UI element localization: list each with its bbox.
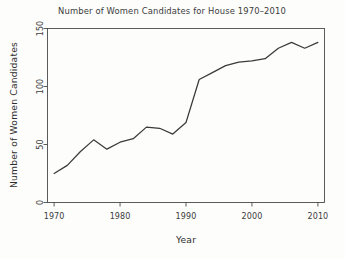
line-chart: Number of Women Candidates for House 197… xyxy=(0,0,345,259)
x-tick-label: 1980 xyxy=(110,212,131,221)
chart-figure: Number of Women Candidates for House 197… xyxy=(0,0,345,259)
x-axis-ticks: 19701980199020002010 xyxy=(44,203,329,221)
y-axis-label: Number of Women Candidates xyxy=(8,42,19,188)
y-axis-ticks: 050100150 xyxy=(36,21,48,205)
plot-frame xyxy=(48,29,325,203)
y-tick-label: 0 xyxy=(36,200,45,205)
data-series-line xyxy=(54,42,318,173)
x-tick-label: 1970 xyxy=(44,212,65,221)
x-axis-label: Year xyxy=(175,234,196,245)
y-tick-label: 100 xyxy=(36,79,45,95)
x-tick-label: 2000 xyxy=(242,212,263,221)
x-tick-label: 1990 xyxy=(176,212,197,221)
chart-title: Number of Women Candidates for House 197… xyxy=(58,6,286,16)
x-tick-label: 2010 xyxy=(308,212,329,221)
y-tick-label: 150 xyxy=(36,21,45,37)
y-tick-label: 50 xyxy=(36,139,45,149)
